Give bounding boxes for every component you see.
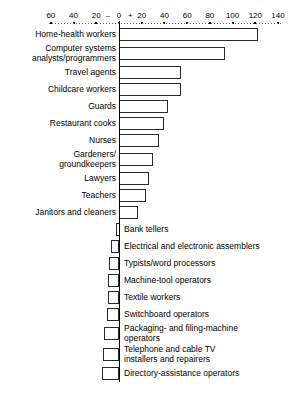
bar bbox=[119, 172, 149, 185]
axis-dotted-rule bbox=[157, 23, 158, 24]
axis-dotted-rule bbox=[172, 23, 173, 24]
chart-row: Nurses bbox=[0, 132, 299, 149]
axis-dotted-rule bbox=[208, 23, 209, 24]
axis-tick-label: – bbox=[105, 11, 109, 20]
category-label: Teachers bbox=[3, 191, 116, 201]
axis-dotted-rule bbox=[124, 23, 125, 24]
axis-dotted-rule bbox=[256, 23, 257, 24]
axis-dotted-rule bbox=[190, 23, 191, 24]
axis-tick-labels: 604020–0+20406080100120140 bbox=[0, 11, 299, 22]
axis-dotted-rule bbox=[241, 23, 242, 24]
axis-tick-label: + bbox=[128, 11, 133, 20]
axis-dotted-rule bbox=[199, 23, 200, 24]
bar bbox=[109, 257, 119, 270]
chart-row: Computer systems analysts/programmers bbox=[0, 43, 299, 64]
axis-dotted-rule bbox=[196, 23, 197, 24]
axis-dotted-rule bbox=[163, 23, 164, 24]
axis-dotted-rule bbox=[223, 23, 224, 24]
category-label: Lawyers bbox=[3, 174, 116, 184]
category-label: Travel agents bbox=[3, 68, 116, 78]
axis-dotted-rule bbox=[193, 23, 194, 24]
chart-row: Textile workers bbox=[0, 289, 299, 306]
axis-dotted-rule bbox=[169, 23, 170, 24]
category-label: Electrical and electronic assemblers bbox=[124, 242, 297, 252]
axis-tick-label: 40 bbox=[69, 11, 78, 20]
zero-axis-line bbox=[119, 21, 120, 382]
chart-row: Electrical and electronic assemblers bbox=[0, 238, 299, 255]
bar bbox=[107, 308, 119, 321]
axis-tick-label: 60 bbox=[46, 11, 55, 20]
axis-dotted-rule bbox=[187, 23, 188, 24]
category-label: Textile workers bbox=[124, 293, 297, 303]
axis-dotted-rule bbox=[133, 23, 134, 24]
chart-row: Teachers bbox=[0, 187, 299, 204]
chart-row: Restaurant cooks bbox=[0, 115, 299, 132]
axis-dotted-rule bbox=[70, 23, 71, 24]
axis-dotted-rule bbox=[250, 23, 251, 24]
axis-dotted-rule bbox=[79, 23, 80, 24]
axis-tick-label: 20 bbox=[92, 11, 101, 20]
axis-dotted-rule bbox=[58, 23, 59, 24]
category-label: Gardeners/ groundkeepers bbox=[3, 150, 116, 169]
bar bbox=[119, 100, 168, 113]
axis-dotted-rule bbox=[184, 23, 185, 24]
axis-dotted-rule bbox=[274, 23, 275, 24]
bar bbox=[104, 327, 119, 340]
axis-dotted-rule bbox=[64, 23, 65, 24]
bar bbox=[119, 28, 258, 41]
axis-tick-label: 80 bbox=[205, 11, 214, 20]
axis-dotted-rule bbox=[238, 23, 239, 24]
bar bbox=[119, 189, 146, 202]
axis-dotted-rule bbox=[280, 23, 281, 24]
axis-dotted-rule bbox=[142, 23, 143, 24]
axis-dotted-rule bbox=[130, 23, 131, 24]
axis-dotted-rule bbox=[232, 23, 233, 24]
axis-dotted-rule bbox=[67, 23, 68, 24]
axis-dotted-rule bbox=[52, 23, 53, 24]
axis-dotted-rule bbox=[82, 23, 83, 24]
category-label: Switchboard operators bbox=[124, 310, 297, 320]
axis-dotted-rule bbox=[181, 23, 182, 24]
axis-dotted-rule bbox=[73, 23, 74, 24]
axis-dotted-rule bbox=[253, 23, 254, 24]
axis-dotted-rule bbox=[211, 23, 212, 24]
axis-dotted-rule bbox=[268, 23, 269, 24]
chart-row: Guards bbox=[0, 98, 299, 115]
axis-dotted-rule bbox=[61, 23, 62, 24]
axis-dotted-rule bbox=[103, 23, 104, 24]
axis-dotted-rule bbox=[154, 23, 155, 24]
axis-dotted-rule bbox=[229, 23, 230, 24]
bar bbox=[119, 206, 138, 219]
chart-row: Directory-assistance operators bbox=[0, 365, 299, 382]
axis-dotted-rule bbox=[100, 23, 101, 24]
axis-tick-label: 100 bbox=[226, 11, 239, 20]
bar bbox=[119, 134, 159, 147]
axis-dotted-rule bbox=[259, 23, 260, 24]
axis-tick-label: 140 bbox=[271, 11, 284, 20]
chart-row: Home-health workers bbox=[0, 26, 299, 43]
axis-dotted-rule bbox=[115, 23, 116, 24]
axis-tick-label: 120 bbox=[249, 11, 262, 20]
axis-dotted-rule bbox=[49, 23, 50, 24]
chart-row: Janitors and cleaners bbox=[0, 204, 299, 221]
category-label: Directory-assistance operators bbox=[124, 369, 297, 379]
axis-dotted-rule bbox=[55, 23, 56, 24]
category-label: Machine-tool operators bbox=[124, 276, 297, 286]
axis-dotted-rule bbox=[109, 23, 110, 24]
bar bbox=[108, 274, 119, 287]
axis-dotted-rule bbox=[148, 23, 149, 24]
axis-dotted-rule bbox=[136, 23, 137, 24]
bar bbox=[102, 367, 119, 380]
category-label: Packaging- and filing-machine operators bbox=[124, 324, 297, 343]
axis-tick-marks bbox=[0, 22, 299, 25]
category-label: Telephone and cable TV installers and re… bbox=[124, 345, 297, 364]
axis-dotted-rule bbox=[91, 23, 92, 24]
chart-row: Gardeners/ groundkeepers bbox=[0, 149, 299, 170]
axis-dotted-rule bbox=[88, 23, 89, 24]
axis-dotted-rule bbox=[277, 23, 278, 24]
axis-tick-label: 40 bbox=[160, 11, 169, 20]
bar bbox=[119, 83, 181, 96]
chart-row: Lawyers bbox=[0, 170, 299, 187]
diverging-bar-chart: 604020–0+20406080100120140 Home-health w… bbox=[0, 0, 299, 413]
bar bbox=[119, 47, 225, 60]
